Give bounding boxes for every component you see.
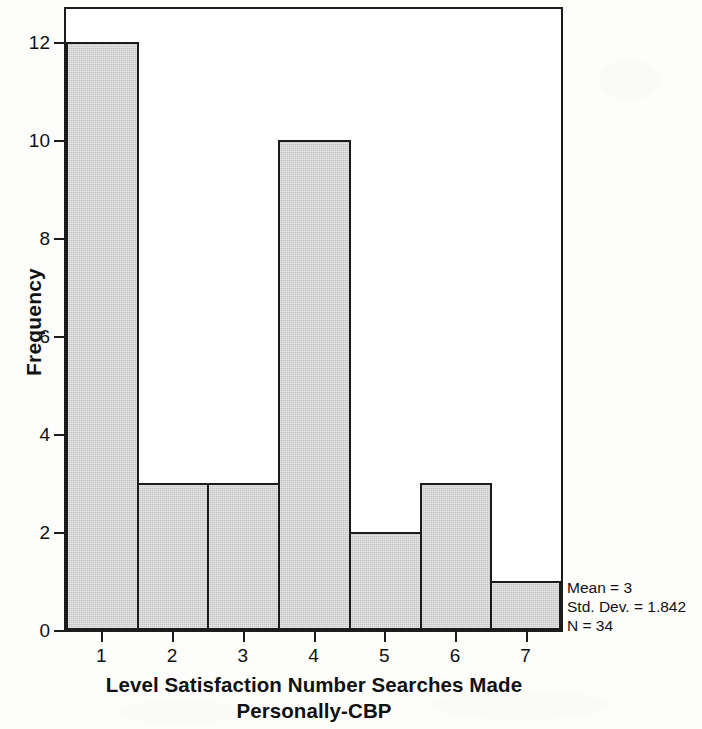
y-axis-tick-label: 4 (0, 424, 50, 443)
x-axis-tick (101, 630, 103, 642)
y-axis-tick-label: 0 (0, 621, 50, 640)
std-dev-label: Std. Dev. = 1.842 (567, 597, 686, 616)
x-axis-tick-label: 4 (294, 646, 334, 665)
y-axis-tick (54, 630, 66, 632)
y-axis-tick-label: 2 (0, 522, 50, 541)
bar (278, 140, 351, 630)
y-axis-tick (54, 532, 66, 534)
x-axis-tick (172, 630, 174, 642)
x-axis-tick-label: 7 (506, 646, 546, 665)
x-axis-title: Level Satisfaction Number Searches Made … (14, 672, 614, 724)
y-axis-tick (54, 238, 66, 240)
y-axis-tick-label: 10 (0, 130, 50, 149)
n-label: N = 34 (567, 616, 686, 635)
x-axis-title-line-1: Level Satisfaction Number Searches Made (14, 672, 614, 698)
bar (66, 42, 139, 630)
scan-artifact (600, 60, 660, 100)
plot-inner: 0246810121234567 (66, 9, 561, 630)
x-axis-tick (384, 630, 386, 642)
y-axis-tick-label: 6 (0, 326, 50, 345)
y-axis-tick (54, 434, 66, 436)
y-axis-tick-label: 12 (0, 32, 50, 51)
x-axis-title-line-2: Personally-CBP (14, 698, 614, 724)
y-axis-tick-label: 8 (0, 228, 50, 247)
x-axis-tick (526, 630, 528, 642)
x-axis-tick (455, 630, 457, 642)
x-axis-tick (243, 630, 245, 642)
x-axis-tick-label: 6 (435, 646, 475, 665)
y-axis-title: Frequency (22, 222, 46, 422)
x-axis-tick-label: 2 (152, 646, 192, 665)
bar (349, 532, 422, 630)
statistics-annotation: Mean = 3 Std. Dev. = 1.842 N = 34 (567, 578, 686, 635)
bar (420, 483, 493, 630)
mean-label: Mean = 3 (567, 578, 686, 597)
y-axis-tick (54, 336, 66, 338)
x-axis-tick (314, 630, 316, 642)
bar (490, 581, 561, 630)
y-axis-tick (54, 140, 66, 142)
bar (207, 483, 280, 630)
bar (137, 483, 210, 630)
y-axis-tick (54, 42, 66, 44)
x-axis-tick-label: 5 (364, 646, 404, 665)
plot-area: 0246810121234567 (64, 7, 563, 632)
x-axis-tick-label: 3 (223, 646, 263, 665)
x-axis-tick-label: 1 (81, 646, 121, 665)
histogram-figure: Frequency 0246810121234567 Level Satisfa… (0, 0, 702, 729)
